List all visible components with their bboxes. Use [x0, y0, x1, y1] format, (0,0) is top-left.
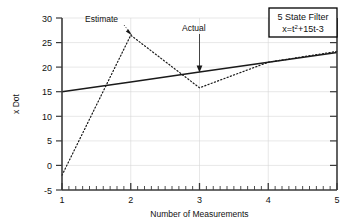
legend-box: 5 State Filter x=t2+15t-3 [269, 8, 337, 37]
legend-formula-suffix: +15t-3 [298, 24, 324, 34]
chart-container: Estimate Actual [0, 0, 360, 223]
chart-svg: Estimate Actual [0, 0, 360, 223]
annotation-actual-label: Actual [182, 23, 206, 33]
y-tick-label-15: 15 [42, 87, 52, 97]
y-tick-label-5: 5 [47, 136, 52, 146]
y-tick-label-minus5: -5 [44, 186, 52, 196]
x-tick-label-4: 4 [266, 195, 271, 205]
y-tick-label-10: 10 [42, 112, 52, 122]
legend-formula-prefix: x=t [282, 24, 295, 34]
legend-formula: x=t2+15t-3 [282, 24, 323, 35]
x-tick-label-3: 3 [197, 195, 202, 205]
legend-line-1: 5 State Filter [277, 12, 328, 22]
y-axis-title: x Dot [11, 93, 21, 113]
x-tick-label-2: 2 [128, 195, 133, 205]
annotation-estimate-label: Estimate [85, 14, 118, 24]
y-tick-label-0: 0 [47, 161, 52, 171]
x-tick-label-1: 1 [59, 195, 64, 205]
y-tick-label-25: 25 [42, 38, 52, 48]
y-tick-label-20: 20 [42, 63, 52, 73]
x-axis-title: Number of Measurements [150, 209, 248, 219]
y-tick-label-30: 30 [42, 14, 52, 24]
x-tick-label-5: 5 [334, 195, 339, 205]
